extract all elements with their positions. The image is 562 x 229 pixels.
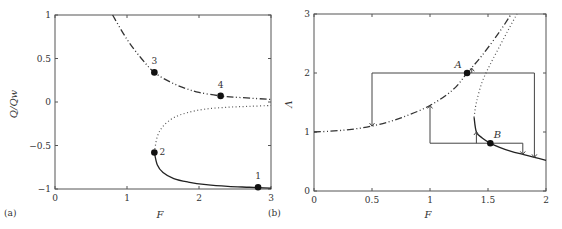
y-tick-label: 0 xyxy=(45,97,51,107)
point-label: 2 xyxy=(159,147,165,157)
point-label: 1 xyxy=(255,171,261,181)
y-tick-label: 3 xyxy=(304,9,310,19)
data-point-4 xyxy=(217,93,224,100)
y-tick-label: −1 xyxy=(38,184,51,194)
plot-frame xyxy=(55,15,271,189)
x-tick-label: 3 xyxy=(268,193,274,203)
point-label: 3 xyxy=(151,56,157,66)
chart-panel-b: 00.511.520123FΛ(b)AB xyxy=(268,9,549,220)
point-label: B xyxy=(493,129,501,140)
series-line xyxy=(154,105,271,152)
point-label: 4 xyxy=(218,80,224,90)
panel-label: (b) xyxy=(268,208,281,218)
series-line xyxy=(474,117,546,160)
series-line xyxy=(154,152,271,188)
y-tick-label: 0.5 xyxy=(37,54,52,64)
data-point-A xyxy=(464,70,471,77)
data-point-2 xyxy=(151,149,158,156)
x-tick-label: 2 xyxy=(196,193,202,203)
series-line xyxy=(113,15,271,99)
y-tick-label: 1 xyxy=(304,127,310,137)
point-label: A xyxy=(454,59,462,70)
x-tick-label: 2 xyxy=(543,195,549,205)
y-tick-label: 1 xyxy=(45,10,51,20)
plot-frame xyxy=(314,14,546,191)
y-tick-label: 0 xyxy=(304,186,310,196)
x-tick-label: 1 xyxy=(124,193,130,203)
data-point-B xyxy=(487,140,494,147)
x-tick-label: 0 xyxy=(52,193,58,203)
series-line xyxy=(474,14,517,117)
x-tick-label: 1.5 xyxy=(481,195,496,205)
panel-label: (a) xyxy=(4,208,16,218)
x-axis-label: F xyxy=(424,209,433,220)
y-axis-label: Q/Qw xyxy=(8,89,19,118)
chart-canvas: 0123−1−0.500.51FQ/Qw(a)123400.511.520123… xyxy=(0,0,562,229)
y-tick-label: −0.5 xyxy=(29,141,51,151)
chart-panel-a: 0123−1−0.500.51FQ/Qw(a)1234 xyxy=(4,10,274,220)
data-point-1 xyxy=(255,184,262,191)
x-axis-label: F xyxy=(156,209,165,220)
x-tick-label: 0 xyxy=(311,195,317,205)
hysteresis-path xyxy=(372,73,534,157)
y-axis-label: Λ xyxy=(283,100,294,108)
y-tick-label: 2 xyxy=(304,68,310,78)
data-point-3 xyxy=(151,69,158,76)
x-tick-label: 0.5 xyxy=(365,195,380,205)
x-tick-label: 1 xyxy=(427,195,433,205)
